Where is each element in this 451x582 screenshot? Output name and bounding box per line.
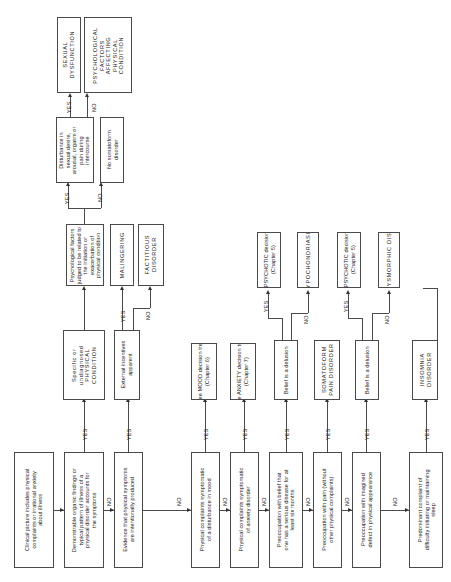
edge-label-hypo-yes: YES [284, 428, 290, 440]
arrow-physcond-to-psychfactors [82, 286, 86, 290]
edge-intentional-yes [128, 400, 129, 452]
node-psych-factors-affecting-physical-condition: PSYCHOLOGICAL FACTORS AFFECTING PHYSICAL… [84, 17, 132, 93]
node-body-dysmorphic-disorder-label: BODY DYSMORPHIC DISORDER [386, 232, 393, 288]
node-psychotic-tree-2-label: See PSYCHOTIC decision tree (Chapter 5) [342, 232, 355, 288]
node-q-intentional: Evidence that physical symptoms are inte… [114, 452, 143, 568]
edge-label-mood-yes: YES [203, 428, 209, 440]
node-physical-condition-label: Specific or undiagnosed PHYSICAL CONDITI… [71, 345, 97, 384]
edge-disturbance-no [87, 95, 88, 117]
node-malingering: MALINGERING [110, 224, 134, 286]
node-q-pain-label: Preoccupation with pain (without other p… [321, 469, 334, 551]
edge-label-delusion1-yes: YES [263, 300, 269, 312]
edge-defect-yes [366, 400, 367, 452]
node-body-dysmorphic-disorder: BODY DYSMORPHIC DISORDER [378, 232, 400, 288]
node-q-external-incentives: External incentives apparent [114, 330, 140, 400]
edge-label-anxiety-yes: YES [242, 428, 248, 440]
edge-label-delusion2-yes: YES [343, 300, 349, 312]
edge-organic-yes [84, 400, 85, 452]
node-q-imagined-defect-label: Preoccupation with imagined defect in ph… [360, 472, 373, 548]
node-q-delusion-1: Belief is a delusion [274, 340, 298, 400]
node-q-disturbance-sexual-label: Disturbance in sexual desire, arousal, o… [59, 126, 92, 174]
arrow-delusion1-yes [266, 290, 270, 294]
node-physical-condition: Specific or undiagnosed PHYSICAL CONDITI… [63, 330, 105, 400]
edge-label-anxiety-no: NO [261, 497, 267, 506]
node-q-delusion-2: Belief is a delusion [355, 340, 379, 400]
edge-delusion1-yes-seg1 [282, 318, 283, 340]
node-sexual-dysfunction-label: SEXUAL DYSFUNCTION [62, 31, 75, 79]
node-q-mood: Physical complaints symptomatic of a dis… [191, 452, 220, 568]
node-mood-tree: See MOOD decision tree (Chapter 6) [191, 343, 217, 400]
edge-delusion2-yes-seg2 [348, 318, 362, 319]
node-psych-factors-affecting-label: PSYCHOLOGICAL FACTORS AFFECTING PHYSICAL… [92, 27, 125, 84]
edge-label-disturbance-no: NO [91, 103, 97, 112]
node-start-label: Clinical picture includes physical compl… [24, 469, 44, 551]
edge-incentives-no-seg2 [133, 308, 150, 309]
arrow-delusion2-yes [346, 290, 350, 294]
edge-delusion1-no-seg2 [291, 313, 308, 314]
node-q-hypochondriasis-label: Preoccupation with belief that one has a… [276, 469, 296, 550]
edge-anxiety-yes [244, 400, 245, 452]
node-q-mood-label: Physical complaints symptomatic of a dis… [199, 468, 212, 552]
node-start: Clinical picture includes physical compl… [14, 452, 54, 568]
edge-label-intentional-yes: YES [126, 428, 132, 440]
edge-incentives-no-seg3 [150, 288, 151, 308]
node-q-imagined-defect: Preoccupation with imagined defect in ph… [352, 452, 381, 568]
node-no-somatoform-disorder-label: No somatoform disorder [105, 131, 118, 170]
node-factitious-disorder-label: FACTITIOUS DISORDER [144, 235, 157, 275]
node-q-sleep-label: Predominant complaint of difficulty init… [416, 470, 436, 551]
edge-label-hypo-no: NO [305, 497, 311, 506]
edge-insomnia-up-cap [423, 288, 438, 289]
node-anxiety-tree: See ANXIETY decision tree (Chapter 7) [230, 343, 256, 400]
arrow-delusion2-no [387, 290, 391, 294]
node-q-intentional-label: Evidence that physical symptoms are inte… [122, 468, 135, 552]
edge-label-sexual-no: NO [97, 193, 103, 202]
edge-pain-yes [327, 400, 328, 452]
node-psychotic-tree-1: See PSYCHOTIC decision tree (Chapter 5) [257, 232, 281, 288]
edge-label-defect-yes: YES [364, 428, 370, 440]
edge-label-pain-yes: YES [325, 428, 331, 440]
edge-incentives-yes [122, 288, 123, 330]
edge-delusion2-no-seg2 [372, 313, 389, 314]
node-psychotic-tree-2: See PSYCHOTIC decision tree (Chapter 5) [337, 232, 361, 288]
node-psychotic-tree-1-label: See PSYCHOTIC decision tree (Chapter 5) [262, 232, 275, 288]
node-q-anxiety-label: Physical complaints symptomatic of anxie… [238, 468, 251, 552]
edge-incentives-no-seg1 [133, 308, 134, 330]
node-hypochondriasis-label: HYPOCHONDRIASIS [305, 232, 312, 288]
node-q-anxiety: Physical complaints symptomatic of anxie… [230, 452, 259, 568]
node-hypochondriasis: HYPOCHONDRIASIS [297, 232, 319, 288]
edge-psychfactors-up [84, 208, 85, 224]
node-q-sleep: Predominant complaint of difficulty init… [409, 452, 443, 568]
edge-label-delusion2-no: NO [384, 315, 390, 324]
node-q-organic-label: Demonstrable organic findings or typical… [71, 468, 97, 552]
node-q-psych-factors: Psychological factors judged to be relat… [66, 224, 104, 286]
decision-tree-diagram: Clinical picture includes physical compl… [0, 0, 451, 582]
edge-hypo-yes [286, 400, 287, 452]
edge-label-organic-yes: YES [82, 428, 88, 440]
edge-intentional-no [143, 510, 191, 511]
edge-label-organic-no: NO [106, 497, 112, 506]
edge-label-disturbance-yes: YES [66, 101, 72, 113]
edge-label-defect-no: NO [392, 497, 398, 506]
edge-physcond-to-psychfactors [84, 288, 85, 330]
node-q-delusion-1-label: Belief is a delusion [283, 346, 290, 394]
node-q-pain: Preoccupation with pain (without other p… [313, 452, 342, 568]
arrow-incentives-no [148, 286, 152, 290]
edge-delusion1-yes-seg2 [268, 318, 282, 319]
node-q-disturbance-sexual: Disturbance in sexual desire, arousal, o… [56, 117, 94, 183]
edge-delusion1-no-seg1 [291, 313, 292, 340]
edge-label-delusion1-no: NO [303, 315, 309, 324]
node-no-somatoform-disorder: No somatoform disorder [100, 117, 124, 183]
node-mood-tree-label: See MOOD decision tree (Chapter 6) [197, 343, 210, 400]
edge-delusion2-yes-seg1 [362, 318, 363, 340]
node-anxiety-tree-label: See ANXIETY decision tree (Chapter 7) [236, 343, 249, 400]
node-sexual-dysfunction: SEXUAL DYSFUNCTION [57, 17, 81, 93]
node-q-organic: Demonstrable organic findings or typical… [64, 452, 104, 568]
node-factitious-disorder: FACTITIOUS DISORDER [138, 224, 164, 286]
arrow-incentives-yes [120, 286, 124, 290]
edge-label-incentives-no: NO [145, 311, 151, 320]
node-q-delusion-2-label: Belief is a delusion [364, 346, 371, 394]
edge-label-sexual-yes: YES [64, 192, 70, 204]
node-q-psych-factors-label: Psychological factors judged to be relat… [69, 227, 102, 284]
edge-sleep-yes [426, 400, 427, 452]
edge-delusion2-no-seg3 [389, 292, 390, 313]
